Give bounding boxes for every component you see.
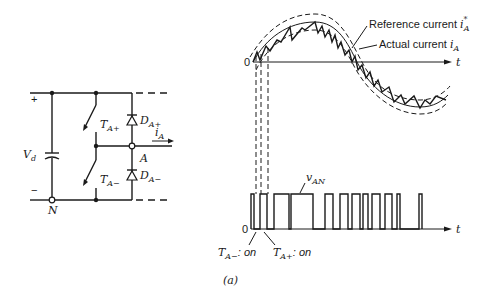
actual-current-curve — [253, 22, 446, 108]
switch-top-label: TA+ — [100, 118, 120, 133]
junction-dot — [50, 91, 54, 95]
voltage-waveform-plot: 0 t vAN TA−: on TA+: on — [218, 171, 461, 261]
current-arrowhead-icon — [168, 139, 174, 144]
time-axis-label: t — [456, 223, 461, 236]
annot-minus-label: TA−: on — [218, 246, 256, 261]
diode-bottom-icon — [127, 170, 137, 180]
origin-label: 0 — [242, 223, 248, 235]
diode-bottom-label: DA− — [139, 169, 161, 184]
switch-top-blade — [85, 105, 96, 127]
figure-caption: (a) — [223, 274, 238, 287]
plus-label: + — [31, 93, 37, 105]
node-n-label: N — [47, 204, 58, 217]
current-waveform-plot: 0 t Reference current iA* Actual current… — [244, 14, 470, 194]
minus-label: − — [31, 184, 37, 196]
vAN-pulse-train — [251, 194, 422, 229]
actual-leader — [359, 45, 377, 49]
vAN-label: vAN — [306, 171, 326, 186]
node-a-label: A — [139, 152, 148, 165]
vd-label: Vd — [23, 148, 36, 163]
axis-arrow-icon — [444, 60, 452, 65]
node-n — [49, 197, 55, 203]
diagram-canvas: + − Vd N A TA+ TA− DA+ DA− iA 0 t Refere… — [0, 0, 480, 305]
annot-plus-leader — [264, 232, 275, 245]
reference-current-curve — [253, 22, 448, 107]
node-a — [129, 143, 135, 149]
actual-current-label: Actual current iA — [379, 38, 459, 53]
annot-plus-label: TA+: on — [273, 246, 311, 261]
annot-minus-leader — [249, 232, 256, 245]
reference-current-label: Reference current iA* — [369, 15, 470, 33]
time-axis-label: t — [456, 56, 461, 69]
diode-top-icon — [127, 115, 137, 125]
origin-label: 0 — [244, 56, 250, 68]
vAN-leader — [300, 183, 305, 193]
reference-leader — [352, 26, 367, 48]
switch-bottom-blade — [85, 160, 96, 182]
switch-bottom-label: TA− — [100, 173, 120, 188]
axis-arrow-icon — [444, 227, 452, 232]
junction-dot — [94, 198, 98, 202]
inverter-leg-circuit: + − Vd N A TA+ TA− DA+ DA− iA — [23, 91, 174, 217]
